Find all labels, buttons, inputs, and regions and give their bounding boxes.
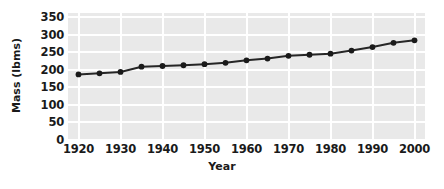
data-point-marker — [76, 72, 82, 78]
x-axis-tick-label: 1970 — [267, 143, 311, 156]
data-point-marker — [307, 52, 313, 58]
series-line — [79, 40, 415, 74]
x-axis-tick-label: 1980 — [309, 143, 353, 156]
x-axis-tick-label: 1950 — [183, 143, 227, 156]
data-point-marker — [139, 64, 145, 70]
data-point-marker — [328, 51, 334, 57]
y-axis-title-wrap: Mass (lbms) — [6, 0, 26, 150]
data-point-marker — [181, 62, 187, 68]
x-axis-tick-labels: 192019301940195019601970198019902000 — [0, 143, 444, 159]
x-axis-title: Year — [0, 160, 444, 173]
data-point-marker — [412, 37, 418, 43]
x-axis-tick-label: 2000 — [393, 143, 437, 156]
y-axis-title: Mass (lbms) — [10, 37, 23, 112]
data-point-marker — [223, 60, 229, 66]
data-point-marker — [97, 70, 103, 76]
data-point-marker — [391, 40, 397, 46]
data-series — [68, 13, 425, 140]
data-point-marker — [286, 53, 292, 59]
data-point-marker — [349, 48, 355, 54]
line-chart: 050100150200250300350 192019301940195019… — [0, 0, 444, 189]
x-axis-tick-label: 1990 — [351, 143, 395, 156]
data-point-marker — [244, 57, 250, 63]
x-axis-tick-label: 1920 — [57, 143, 101, 156]
x-axis-tick-label: 1940 — [141, 143, 185, 156]
data-point-marker — [160, 63, 166, 69]
data-point-marker — [118, 69, 124, 75]
data-point-marker — [202, 61, 208, 67]
data-point-marker — [370, 44, 376, 50]
x-axis-tick-label: 1960 — [225, 143, 269, 156]
plot-area — [68, 13, 425, 140]
data-point-marker — [265, 56, 271, 62]
x-axis-tick-label: 1930 — [99, 143, 143, 156]
